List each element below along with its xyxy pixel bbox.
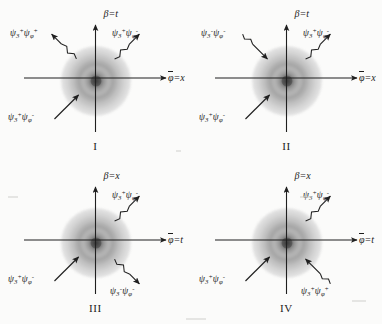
particle-bottom-left-II: [245, 95, 269, 119]
scan-artifact-3: [300, 196, 312, 198]
axis-label-vertical-IV: β=x: [295, 170, 311, 181]
particle-label-bottom-right-IV: ψ3+ψφ+: [301, 286, 329, 297]
panel-numeral-IV: IV: [191, 302, 382, 314]
diagram-canvas-I: [0, 0, 191, 162]
particle-label-bottom-left-III: ψ3+ψφ-: [8, 274, 34, 285]
particle-label-top-right-III: ψ3+ψφ-: [112, 190, 138, 201]
particle-bottom-right-III: [115, 259, 140, 284]
axes-IV: [215, 187, 357, 294]
panel-stage-III: β=xφ=tψ3+ψφ-ψ3-ψφ-ψ3+ψφ-III: [0, 162, 191, 324]
panel-numeral-III: III: [0, 302, 191, 314]
particle-bottom-left-I: [54, 95, 78, 119]
axis-label-horizontal-II: φ=x: [359, 72, 376, 83]
axis-label-vertical-I: β=t: [104, 8, 119, 19]
panel-III: β=xφ=tψ3+ψφ-ψ3-ψφ-ψ3+ψφ-III: [0, 162, 191, 324]
axis-label-vertical-II: β=t: [295, 8, 310, 19]
particle-label-top-left-II: ψ3-ψφ-: [201, 28, 226, 39]
scan-artifact-0: [352, 300, 366, 302]
axes-I: [24, 25, 166, 132]
panel-stage-I: β=tφ=xψ3+ψφ+ψ3+ψφ-ψ3+ψφ-I: [0, 0, 191, 162]
particle-label-bottom-left-I: ψ3+ψφ-: [8, 112, 34, 123]
scan-artifact-2: [176, 150, 181, 152]
particle-top-left-I: [52, 34, 77, 59]
panel-I: β=tφ=xψ3+ψφ+ψ3+ψφ-ψ3+ψφ-I: [0, 0, 191, 162]
panel-numeral-I: I: [0, 140, 191, 152]
diagram-canvas-II: [191, 0, 382, 162]
particle-label-bottom-right-III: ψ3-ψφ-: [110, 286, 135, 297]
particle-top-left-II: [243, 34, 268, 59]
particle-label-top-right-I: ψ3+ψφ-: [112, 28, 138, 39]
panel-numeral-II: II: [191, 140, 382, 152]
particle-bottom-left-III: [54, 257, 78, 281]
axis-label-horizontal-III: φ=t: [168, 234, 183, 245]
particle-label-bottom-left-IV: ψ3+ψφ-: [199, 274, 225, 285]
axis-label-horizontal-I: φ=x: [168, 72, 185, 83]
panel-stage-II: β=tφ=xψ3-ψφ-ψ3+ψφ-ψ3+ψφ-II: [191, 0, 382, 162]
axis-label-horizontal-IV: φ=t: [359, 234, 374, 245]
axes-II: [215, 25, 357, 132]
axes-III: [24, 187, 166, 294]
particle-label-bottom-left-II: ψ3+ψφ-: [199, 112, 225, 123]
scan-artifact-4: [186, 318, 206, 320]
diagram-grid: β=tφ=xψ3+ψφ+ψ3+ψφ-ψ3+ψφ-Iβ=tφ=xψ3-ψφ-ψ3+…: [0, 0, 382, 324]
particle-label-top-left-I: ψ3+ψφ+: [10, 28, 38, 39]
axis-label-vertical-III: β=x: [104, 170, 120, 181]
panel-II: β=tφ=xψ3-ψφ-ψ3+ψφ-ψ3+ψφ-II: [191, 0, 382, 162]
scan-artifact-1: [8, 196, 18, 198]
particle-bottom-right-IV: [306, 259, 331, 284]
particle-label-top-right-II: ψ3+ψφ-: [303, 28, 329, 39]
particle-bottom-left-IV: [245, 257, 269, 281]
diagram-canvas-III: [0, 162, 191, 324]
